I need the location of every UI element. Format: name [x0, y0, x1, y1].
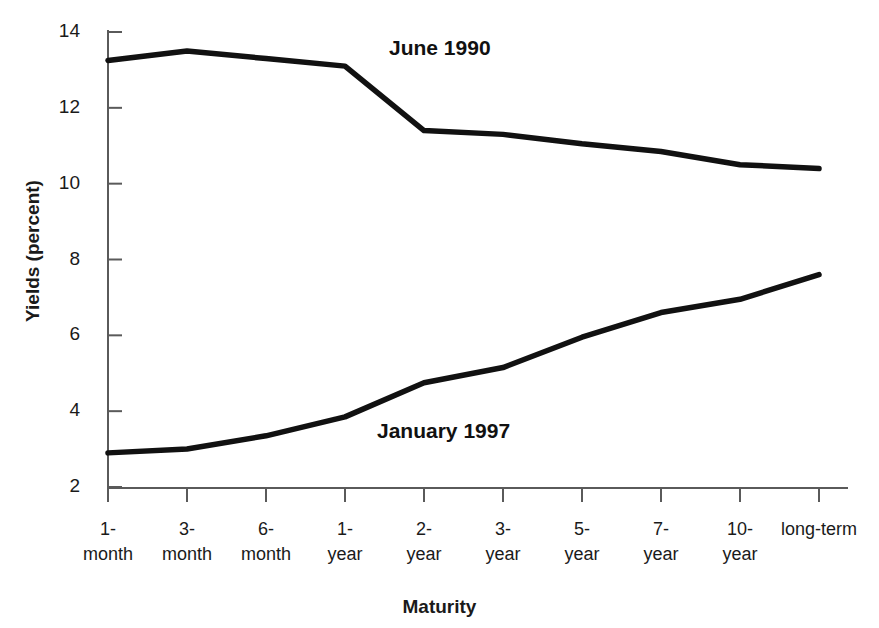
x-tick-label: long-term — [759, 517, 879, 542]
x-tick-label-line1: 1- — [337, 519, 353, 539]
x-tick-label-line2: year — [680, 542, 800, 567]
y-axis-ticks — [107, 32, 122, 487]
y-tick-label: 8 — [46, 248, 80, 270]
x-tick-label-line1: long-term — [781, 519, 857, 539]
y-tick-label: 6 — [46, 323, 80, 345]
y-tick-label: 12 — [46, 96, 80, 118]
y-tick-label: 4 — [46, 399, 80, 421]
y-tick-label: 14 — [46, 20, 80, 42]
x-tick-label-line1: 10- — [727, 519, 753, 539]
x-tick-label-line1: 3- — [495, 519, 511, 539]
x-tick-label-line1: 2- — [416, 519, 432, 539]
y-tick-label: 10 — [46, 172, 80, 194]
x-axis-ticks — [108, 488, 819, 502]
x-axis-title: Maturity — [0, 596, 879, 618]
x-tick-label-line1: 6- — [258, 519, 274, 539]
series-label: January 1997 — [377, 419, 510, 443]
x-tick-label-line1: 5- — [574, 519, 590, 539]
yield-curve-chart: 2468101214 1-month3-month6-month1-year2-… — [0, 0, 879, 628]
x-tick-label-line1: 1- — [100, 519, 116, 539]
x-tick-label-line1: 7- — [653, 519, 669, 539]
y-tick-label: 2 — [46, 475, 80, 497]
series-label: June 1990 — [389, 36, 491, 60]
series-line — [108, 51, 819, 169]
series-lines — [108, 51, 819, 453]
x-tick-label-line1: 3- — [179, 519, 195, 539]
y-axis-title: Yields (percent) — [22, 161, 44, 341]
